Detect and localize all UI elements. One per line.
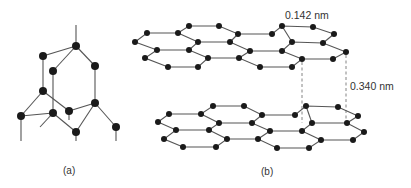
diamond-atoms xyxy=(17,42,120,136)
figure-canvas: (a) xyxy=(0,0,411,188)
graphite-top-layer xyxy=(132,23,349,70)
top-layer-bonds xyxy=(135,26,346,67)
caption-b: (b) xyxy=(261,166,273,177)
caption-a: (a) xyxy=(63,165,75,176)
bond-length-label: 0.142 nm xyxy=(285,9,329,21)
interlayer-spacing-label: 0.340 nm xyxy=(350,80,394,92)
diamond-structure xyxy=(17,25,120,141)
diamond-bonds xyxy=(21,25,116,141)
graphite-bottom-layer xyxy=(155,103,367,151)
